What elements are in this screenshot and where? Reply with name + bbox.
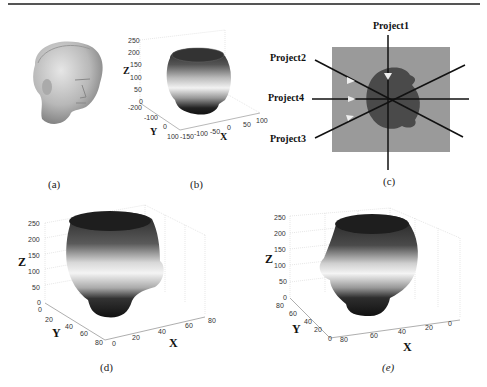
- caption-d: (d): [100, 361, 113, 373]
- b-x-tick-neg100: -100: [194, 130, 208, 137]
- d-z-tick-0: 0: [37, 299, 41, 306]
- label-project2: Project2: [270, 52, 306, 63]
- b-x-tick-neg150: -150: [180, 133, 194, 140]
- e-z-label: Z: [265, 252, 273, 267]
- b-z-tick-150: 150: [130, 61, 142, 68]
- e-x-tick-0: 0: [448, 320, 452, 327]
- e-y-tick-20: 20: [314, 326, 322, 333]
- label-project3: Project3: [270, 133, 306, 144]
- b-z-tick-50: 50: [134, 86, 142, 93]
- caption-a: (a): [48, 178, 60, 190]
- label-project1: Project1: [373, 20, 409, 31]
- b-y-tick-neg100: -100: [144, 114, 158, 121]
- e-z-tick-50: 50: [279, 278, 287, 285]
- e-x-tick-80: 80: [340, 336, 348, 343]
- e-x-label: X: [403, 340, 412, 355]
- caption-c: (c): [383, 175, 395, 187]
- b-y-tick-100: 100: [167, 133, 179, 140]
- d-z-tick-200: 200: [28, 236, 40, 243]
- d-x-tick-20: 20: [132, 334, 140, 341]
- e-z-tick-250: 250: [274, 214, 286, 221]
- d-z-tick-150: 150: [28, 252, 40, 259]
- e-y-tick-0: 0: [328, 335, 332, 342]
- head-sculpture-image: [20, 35, 110, 130]
- b-z-tick-100: 100: [130, 74, 142, 81]
- e-y-tick-80: 80: [276, 302, 284, 309]
- d-z-tick-100: 100: [28, 268, 40, 275]
- d-y-tick-80: 80: [95, 339, 103, 346]
- b-z-tick-200: 200: [128, 49, 140, 56]
- d-x-label: X: [169, 336, 178, 351]
- e-y-tick-60: 60: [289, 310, 297, 317]
- b-z-tick-250: 250: [128, 37, 140, 44]
- d-y-label: Y: [52, 326, 61, 341]
- b-y-tick-0: 0: [163, 123, 167, 130]
- d-z-tick-50: 50: [32, 284, 40, 291]
- b-x-tick-0: 0: [227, 124, 231, 131]
- d-x-tick-0: 0: [112, 340, 116, 347]
- e-x-tick-20: 20: [425, 324, 433, 331]
- e-z-tick-100: 100: [274, 262, 286, 269]
- e-z-tick-150: 150: [274, 246, 286, 253]
- e-y-tick-40: 40: [304, 318, 312, 325]
- b-z-label: Z: [123, 65, 130, 76]
- d-x-tick-80: 80: [208, 317, 216, 324]
- d-x-tick-40: 40: [158, 328, 166, 335]
- e-z-tick-0: 0: [283, 294, 287, 301]
- e-x-tick-60: 60: [370, 332, 378, 339]
- d-y-tick-20: 20: [45, 316, 53, 323]
- d-x-tick-60: 60: [185, 322, 193, 329]
- d-y-tick-40: 40: [65, 323, 73, 330]
- b-x-label: X: [220, 131, 227, 142]
- d-y-tick-0: 0: [38, 306, 42, 313]
- e-y-label: Y: [292, 322, 301, 337]
- e-x-tick-40: 40: [398, 328, 406, 335]
- b-y-label: Y: [150, 126, 157, 137]
- d-z-label: Z: [18, 255, 26, 270]
- caption-b: (b): [190, 178, 203, 190]
- caption-e: (e): [382, 361, 394, 373]
- b-x-tick-50: 50: [243, 121, 251, 128]
- top-rule: [8, 3, 480, 5]
- label-project4: Project4: [268, 92, 304, 103]
- b-x-tick-neg50: -50: [210, 128, 220, 135]
- b-y-tick-neg200: -200: [128, 104, 142, 111]
- d-y-tick-60: 60: [80, 330, 88, 337]
- e-z-tick-200: 200: [274, 230, 286, 237]
- d-z-tick-250: 250: [28, 220, 40, 227]
